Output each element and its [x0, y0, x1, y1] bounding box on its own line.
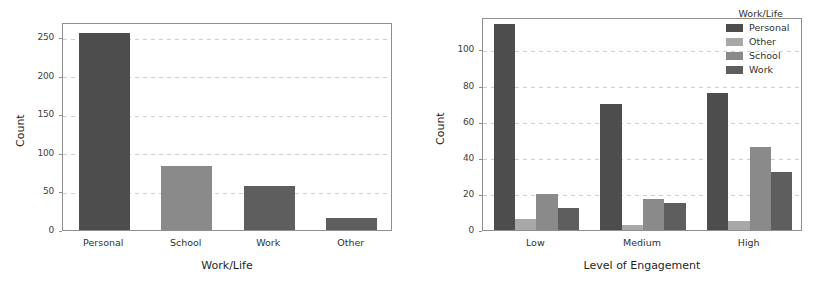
x-tick-label: Medium	[597, 237, 687, 248]
legend-entry: School	[726, 50, 789, 62]
y-tick-label: 150	[24, 110, 54, 119]
y-tick-label: 80	[444, 82, 474, 91]
figure-panel: Count Work/Life 050100150200250PersonalS…	[0, 0, 828, 297]
gridline	[483, 123, 801, 124]
y-tick-mark	[59, 115, 62, 116]
y-tick-label: 40	[444, 154, 474, 163]
y-tick-mark	[479, 195, 482, 196]
y-tick-mark	[479, 159, 482, 160]
y-tick-label: 20	[444, 190, 474, 199]
x-tick-label: Other	[306, 237, 396, 248]
y-tick-mark	[59, 192, 62, 193]
legend-swatch-icon	[726, 66, 743, 74]
bar	[79, 33, 130, 230]
bar	[664, 203, 685, 230]
bar	[600, 104, 621, 230]
x-axis-title: Level of Engagement	[482, 259, 802, 272]
legend-label: School	[749, 51, 781, 61]
legend-title: Work/Life	[726, 8, 789, 19]
gridline	[483, 87, 801, 88]
legend-label: Personal	[749, 23, 789, 33]
y-tick-label: 250	[24, 33, 54, 42]
bar	[536, 194, 557, 230]
legend-entries: PersonalOtherSchoolWork	[726, 22, 789, 76]
chart-work-life-counts: Count Work/Life 050100150200250PersonalS…	[0, 0, 414, 297]
bar	[728, 221, 749, 230]
y-tick-mark	[479, 50, 482, 51]
x-tick-label: School	[141, 237, 231, 248]
legend-label: Other	[749, 37, 776, 47]
y-tick-mark	[479, 231, 482, 232]
legend-label: Work	[749, 65, 773, 75]
y-tick-label: 0	[24, 226, 54, 235]
bar	[558, 208, 579, 230]
legend-swatch-icon	[726, 38, 743, 46]
bar	[750, 147, 771, 230]
y-tick-label: 200	[24, 72, 54, 81]
y-tick-mark	[59, 231, 62, 232]
y-tick-mark	[59, 77, 62, 78]
y-tick-label: 0	[444, 226, 474, 235]
bar	[707, 93, 728, 230]
x-tick-label: High	[704, 237, 794, 248]
bar	[643, 199, 664, 230]
legend-entry: Work	[726, 64, 789, 76]
bar	[494, 24, 515, 230]
y-tick-label: 100	[444, 45, 474, 54]
bar	[622, 225, 643, 230]
bar	[244, 186, 295, 230]
x-tick-label: Personal	[58, 237, 148, 248]
chart-engagement-by-worklife: Count Level of Engagement Work/Life Pers…	[414, 0, 828, 297]
y-tick-label: 100	[24, 149, 54, 158]
legend-entry: Other	[726, 36, 789, 48]
x-tick-label: Work	[223, 237, 313, 248]
bar	[515, 219, 536, 230]
legend-swatch-icon	[726, 24, 743, 32]
legend-swatch-icon	[726, 52, 743, 60]
x-tick-label: Low	[490, 237, 580, 248]
y-tick-mark	[59, 38, 62, 39]
legend-entry: Personal	[726, 22, 789, 34]
y-tick-label: 60	[444, 118, 474, 127]
bar	[326, 218, 377, 230]
bar	[161, 166, 212, 230]
y-tick-mark	[479, 123, 482, 124]
x-axis-title: Work/Life	[62, 259, 392, 272]
y-tick-label: 50	[24, 187, 54, 196]
legend: Work/Life PersonalOtherSchoolWork	[726, 8, 789, 78]
y-tick-mark	[59, 154, 62, 155]
bar	[771, 172, 792, 230]
y-tick-mark	[479, 87, 482, 88]
plot-area	[62, 23, 392, 231]
